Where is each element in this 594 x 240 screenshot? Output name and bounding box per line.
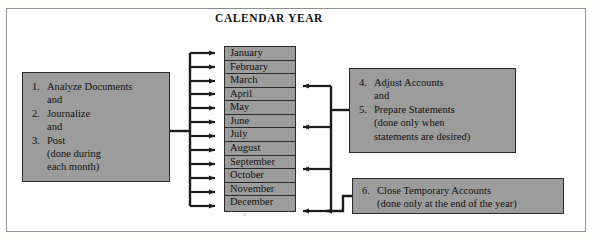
wire-adjust-bus (331, 86, 349, 211)
wire-adjust-arrows (303, 86, 331, 211)
connector-wires (0, 0, 594, 240)
wire-month-feeders (190, 53, 215, 206)
